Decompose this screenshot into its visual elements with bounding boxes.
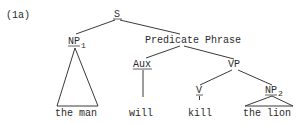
edge-pp-vp xyxy=(184,46,234,59)
leaf-will: will xyxy=(129,108,153,119)
node-s-label: S xyxy=(114,9,120,20)
triangle-np2 xyxy=(245,96,293,106)
node-np1: NP 1 xyxy=(68,36,86,50)
node-aux: Aux xyxy=(133,59,152,70)
edge-pp-aux xyxy=(146,46,180,58)
node-predicate-phrase-label: Predicate Phrase xyxy=(145,35,241,46)
leaf-kill: kill xyxy=(188,108,212,119)
leaf-the-lion: the lion xyxy=(243,108,291,119)
triangle-np1 xyxy=(57,48,98,106)
example-label: (1a) xyxy=(6,10,30,21)
node-np2-label: NP xyxy=(265,85,277,96)
node-np2-subscript: 2 xyxy=(278,89,283,98)
node-vp-label: VP xyxy=(228,59,240,70)
syntax-tree-diagram: (1a) S NP 1 Predicate Phrase Aux VP V NP… xyxy=(0,0,301,124)
edge-vp-v xyxy=(200,70,232,85)
node-v: V xyxy=(196,85,203,96)
node-np1-label: NP xyxy=(68,36,80,47)
edge-vp-np2 xyxy=(238,70,272,85)
node-np1-subscript: 1 xyxy=(81,41,86,50)
leaf-the-man: the man xyxy=(55,108,97,119)
edge-s-predicate-phrase xyxy=(120,20,180,34)
node-aux-label: Aux xyxy=(133,59,151,70)
node-np2: NP 2 xyxy=(265,85,283,98)
node-v-label: V xyxy=(196,85,202,96)
edge-s-np1 xyxy=(76,20,115,34)
node-s: S xyxy=(113,9,122,20)
